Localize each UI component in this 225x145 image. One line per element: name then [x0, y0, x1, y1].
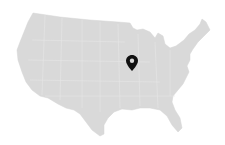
map-pin-icon[interactable]	[126, 55, 138, 71]
us-map	[0, 0, 225, 145]
us-silhouette	[0, 0, 225, 145]
us-landmass	[17, 13, 210, 136]
